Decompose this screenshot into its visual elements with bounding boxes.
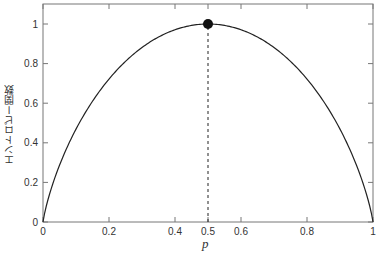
y-axis-label: エントロピー関数 <box>2 50 18 200</box>
max-point-marker <box>203 19 213 29</box>
y-tick-label: 0.4 <box>24 137 38 148</box>
y-tick-label: 0.6 <box>24 98 38 109</box>
x-tick-label: 1 <box>370 226 376 237</box>
y-tick-label: 0.2 <box>24 177 38 188</box>
entropy-chart: 00.20.40.60.81 00.20.40.50.60.81 <box>0 0 382 255</box>
x-axis-label: p <box>202 236 209 252</box>
y-axis-ticks: 00.20.40.60.81 <box>24 19 373 228</box>
x-tick-label: 0.4 <box>168 226 182 237</box>
x-tick-label: 0.8 <box>300 226 314 237</box>
y-tick-label: 0 <box>32 217 38 228</box>
x-tick-label: 0 <box>40 226 46 237</box>
x-tick-label: 0.2 <box>102 226 116 237</box>
y-tick-label: 1 <box>32 19 38 30</box>
x-tick-label: 0.6 <box>234 226 248 237</box>
y-tick-label: 0.8 <box>24 58 38 69</box>
